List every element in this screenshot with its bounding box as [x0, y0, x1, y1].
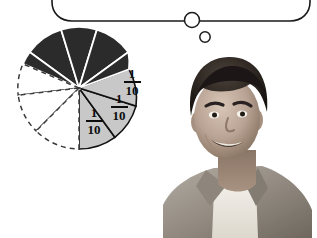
fraction-label-2-denominator: 10	[106, 109, 132, 122]
fraction-label-2-numerator: 1	[106, 92, 132, 105]
fraction-label-2: 1 10	[106, 92, 132, 122]
fraction-label-3-denominator: 10	[81, 123, 107, 136]
fraction-label-3: 1 10	[81, 106, 107, 136]
worksheet-illustration: 1 10 1 10 1 10	[0, 0, 317, 238]
fraction-circle-chart	[0, 0, 317, 238]
fraction-label-1-numerator: 1	[119, 67, 145, 80]
fraction-label-3-numerator: 1	[81, 106, 107, 119]
